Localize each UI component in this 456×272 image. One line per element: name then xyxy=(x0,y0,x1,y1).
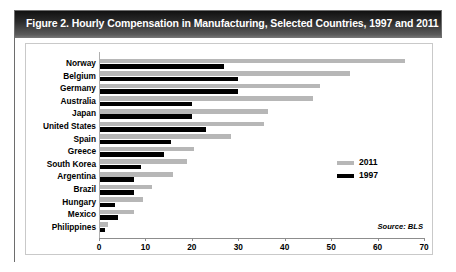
bar-2011 xyxy=(99,159,187,164)
bar-group xyxy=(99,71,434,84)
x-tick-label: 30 xyxy=(234,242,243,252)
bar-group xyxy=(99,121,434,134)
bar-group xyxy=(99,209,434,222)
bar-1997 xyxy=(99,89,238,94)
bar-2011 xyxy=(99,185,152,190)
bar-1997 xyxy=(99,114,192,119)
category-label: Japan xyxy=(26,107,96,120)
x-tick xyxy=(424,238,425,241)
category-label: Philippines xyxy=(26,221,96,234)
category-label: Argentina xyxy=(26,170,96,183)
bar-1997 xyxy=(99,203,115,208)
x-tick xyxy=(145,238,146,241)
legend-label-1997: 1997 xyxy=(359,169,378,182)
legend-label-2011: 2011 xyxy=(359,156,378,169)
bar-1997 xyxy=(99,102,192,107)
bar-group xyxy=(99,108,434,121)
plot-area: NorwayBelgiumGermanyAustraliaJapanUnited… xyxy=(15,38,443,263)
x-tick xyxy=(331,238,332,241)
bar-1997 xyxy=(99,165,141,170)
category-label: Spain xyxy=(26,133,96,146)
category-label: Australia xyxy=(26,95,96,108)
bar-2011 xyxy=(99,147,194,152)
category-label: Mexico xyxy=(26,208,96,221)
legend-swatch-1997 xyxy=(337,174,354,178)
x-tick xyxy=(192,238,193,241)
x-tick xyxy=(99,238,100,241)
bar-group xyxy=(99,96,434,109)
x-tick-label: 40 xyxy=(280,242,289,252)
bar-rows: NorwayBelgiumGermanyAustraliaJapanUnited… xyxy=(26,58,434,234)
category-label: South Korea xyxy=(26,158,96,171)
legend-swatch-2011 xyxy=(337,161,354,165)
bar-2011 xyxy=(99,197,143,202)
bar-2011 xyxy=(99,134,231,139)
y-axis-line xyxy=(99,52,100,238)
bar-group xyxy=(99,58,434,71)
figure-root: Figure 2. Hourly Compensation in Manufac… xyxy=(0,0,456,272)
bar-1997 xyxy=(99,152,164,157)
figure-frame: Figure 2. Hourly Compensation in Manufac… xyxy=(14,10,442,262)
figure-title-band: Figure 2. Hourly Compensation in Manufac… xyxy=(15,11,441,38)
category-label: United States xyxy=(26,120,96,133)
bar-2011 xyxy=(99,122,264,127)
bar-1997 xyxy=(99,127,206,132)
bar-2011 xyxy=(99,210,134,215)
category-label: Germany xyxy=(26,82,96,95)
source-note: Source: BLS xyxy=(377,222,423,231)
x-tick xyxy=(238,238,239,241)
bar-group xyxy=(99,171,434,184)
bar-1997 xyxy=(99,140,171,145)
bar-2011 xyxy=(99,84,320,89)
category-label: Belgium xyxy=(26,70,96,83)
x-tick xyxy=(378,238,379,241)
category-label: Norway xyxy=(26,57,96,70)
bar-group xyxy=(99,134,434,147)
category-label: Brazil xyxy=(26,183,96,196)
category-label: Hungary xyxy=(26,196,96,209)
x-tick-label: 60 xyxy=(373,242,382,252)
bar-2011 xyxy=(99,96,313,101)
bar-group xyxy=(99,159,434,172)
bar-1997 xyxy=(99,177,134,182)
bar-2011 xyxy=(99,71,350,76)
bar-group xyxy=(99,184,434,197)
bar-2011 xyxy=(99,222,108,227)
page-title: Figure 2. Hourly Compensation in Manufac… xyxy=(26,17,439,29)
bar-1997 xyxy=(99,215,118,220)
x-tick-label: 10 xyxy=(141,242,150,252)
bar-group xyxy=(99,197,434,210)
x-axis-line xyxy=(99,238,424,239)
bar-2011 xyxy=(99,59,405,64)
bar-2011 xyxy=(99,172,173,177)
bar-2011 xyxy=(99,109,268,114)
bar-1997 xyxy=(99,64,224,69)
chart-box: NorwayBelgiumGermanyAustraliaJapanUnited… xyxy=(25,43,433,255)
x-tick-label: 20 xyxy=(187,242,196,252)
x-tick-label: 50 xyxy=(327,242,336,252)
bar-1997 xyxy=(99,77,238,82)
category-label: Greece xyxy=(26,145,96,158)
x-tick-label: 70 xyxy=(419,242,428,252)
bar-1997 xyxy=(99,190,134,195)
x-tick xyxy=(285,238,286,241)
bar-group xyxy=(99,83,434,96)
x-tick-label: 0 xyxy=(97,242,102,252)
bar-row: Philippines xyxy=(26,222,434,235)
bar-group xyxy=(99,146,434,159)
